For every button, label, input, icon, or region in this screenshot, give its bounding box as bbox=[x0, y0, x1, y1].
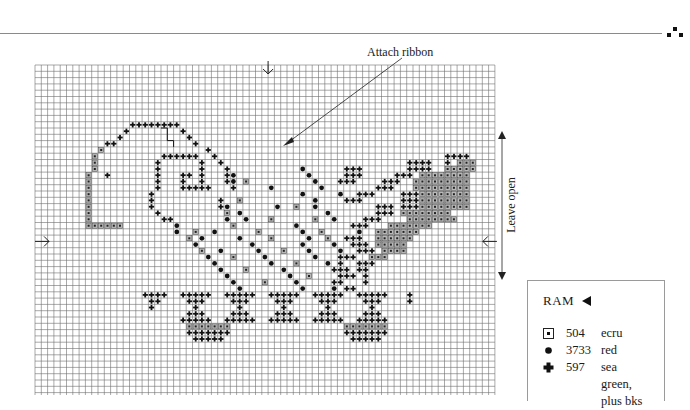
dotted-square-icon bbox=[543, 328, 554, 339]
left-triangle-icon bbox=[582, 296, 591, 306]
key-number: 504 bbox=[566, 325, 585, 342]
key-number: 3733 bbox=[566, 342, 591, 359]
color-key: RAM 504 ecru 3733 red 597 sea green, plu… bbox=[527, 280, 665, 401]
key-title-text: RAM bbox=[543, 293, 574, 308]
attach-ribbon-label: Attach ribbon bbox=[367, 45, 433, 60]
key-color-name: green, bbox=[601, 376, 632, 393]
key-color-name: red bbox=[601, 342, 617, 359]
key-color-name: sea bbox=[601, 359, 617, 376]
key-color-name: plus bks bbox=[601, 393, 642, 410]
leave-open-label: Leave open bbox=[504, 177, 519, 233]
filled-dot-icon bbox=[543, 345, 554, 356]
cross-plus-icon bbox=[543, 362, 554, 373]
key-title: RAM bbox=[543, 293, 591, 309]
key-color-name: ecru bbox=[601, 325, 623, 342]
key-number: 597 bbox=[566, 359, 585, 376]
